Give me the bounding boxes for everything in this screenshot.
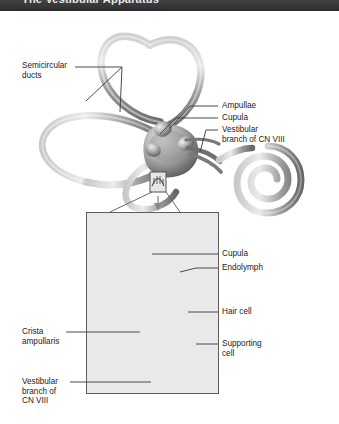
label-cupula-upper: Cupula <box>222 113 248 123</box>
label-hair-cell: Hair cell <box>222 307 252 317</box>
magnification-connector <box>110 192 180 212</box>
vestibular-apparatus-figure: The Vestibular Apparatus <box>0 0 339 424</box>
crista-detail-panel <box>86 212 219 394</box>
section-banner: The Vestibular Apparatus <box>0 0 339 11</box>
label-ampullae: Ampullae <box>222 101 256 111</box>
label-endolymph: Endolymph <box>222 263 263 273</box>
label-semicircular-ducts: Semicircular ducts <box>22 61 84 80</box>
cochlea-spiral <box>237 146 301 213</box>
label-cupula-panel: Cupula <box>222 249 248 259</box>
label-crista-ampullaris: Crista ampullaris <box>22 327 84 346</box>
label-vestibular-branch-lower: Vestibular branch of CN VIII <box>22 377 84 406</box>
label-supporting-cell: Supporting cell <box>222 339 292 358</box>
label-vestibular-branch-upper: Vestibular branch of CN VIII <box>222 125 334 144</box>
banner-gradient-overlay <box>0 0 339 11</box>
